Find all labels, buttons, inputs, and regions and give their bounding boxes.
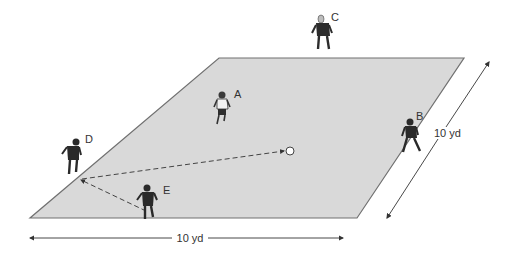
player-d: [62, 139, 81, 175]
field-area: [30, 58, 464, 218]
dimension-right-label: 10 yd: [434, 127, 461, 139]
player-label-c: C: [331, 11, 339, 23]
player-label-e: E: [163, 184, 170, 196]
player-head-icon: [219, 92, 226, 99]
dimension-bottom-label: 10 yd: [177, 232, 204, 244]
player-c: [312, 15, 332, 49]
player-label-d: D: [85, 133, 93, 145]
player-label-b: B: [416, 110, 423, 122]
drill-diagram: A B C D E 10 yd 10 yd: [0, 0, 517, 256]
player-label-a: A: [234, 88, 242, 100]
dimension-bottom: 10 yd: [30, 232, 343, 244]
ball-icon: [286, 147, 294, 155]
